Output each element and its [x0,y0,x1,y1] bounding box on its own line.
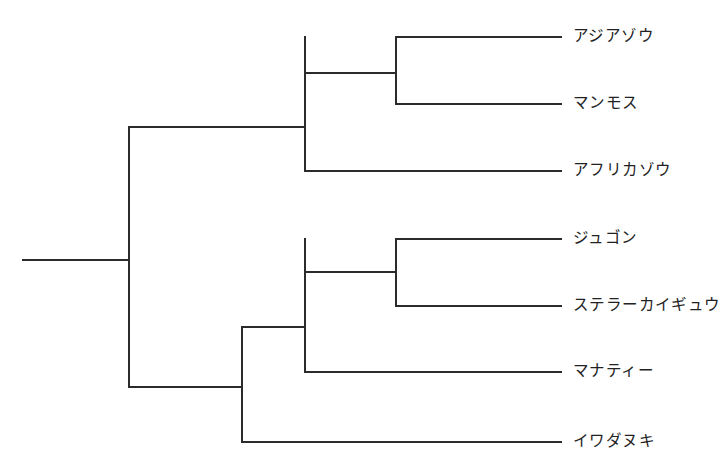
cladogram-figure: アジアゾウ マンモス アフリカゾウ ジュゴン ステラーカイギュウ マナティー イ… [0,0,723,460]
tip-label-manatee: マナティー [573,364,654,380]
tip-label-asian-elephant: アジアゾウ [573,29,654,45]
tip-label-stellers-sea-cow: ステラーカイギュウ [573,298,721,314]
tip-label-african-elephant: アフリカゾウ [573,163,671,179]
tip-label-mammoth: マンモス [573,96,639,112]
tip-label-dugong: ジュゴン [573,231,638,247]
tip-label-hyrax: イワダヌキ [573,434,655,450]
